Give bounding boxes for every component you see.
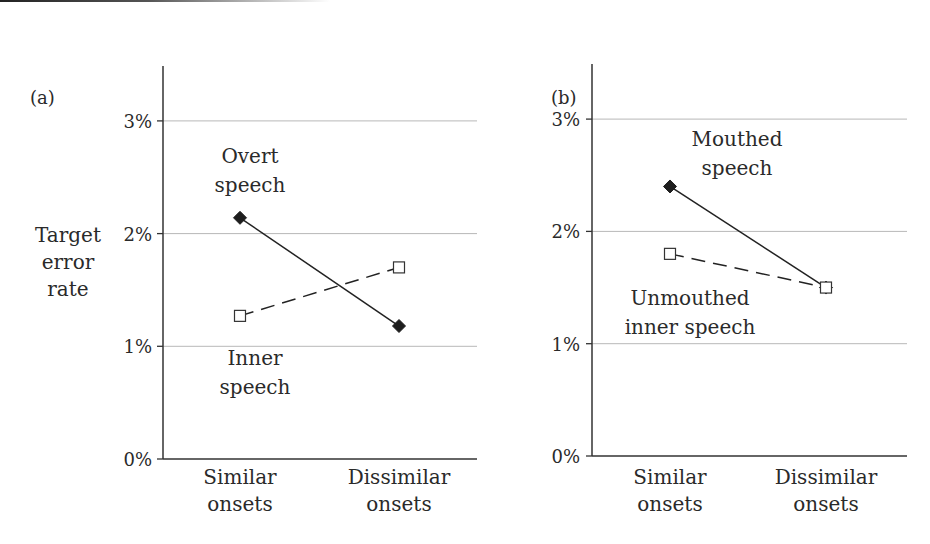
x-category-label: onsets bbox=[793, 492, 858, 516]
panel-label: (b) bbox=[551, 87, 577, 108]
open-square-marker bbox=[394, 262, 405, 273]
y-tick-label: 2% bbox=[551, 221, 580, 242]
open-square-marker bbox=[821, 282, 832, 293]
y-tick-label: 1% bbox=[123, 336, 152, 357]
series-label: Mouthed bbox=[692, 127, 783, 151]
filled-diamond-marker bbox=[393, 320, 406, 333]
series-label: Unmouthed bbox=[630, 286, 749, 310]
open-square-marker bbox=[665, 248, 676, 259]
dashed-series-line bbox=[240, 267, 399, 315]
y-axis-label: rate bbox=[47, 277, 88, 301]
x-category-label: onsets bbox=[637, 492, 702, 516]
x-category-label: Similar bbox=[203, 465, 277, 489]
y-axis-label: error bbox=[42, 250, 95, 274]
dashed-series-line bbox=[670, 254, 826, 288]
panel-label: (a) bbox=[30, 87, 55, 108]
x-category-label: Dissimilar bbox=[348, 465, 451, 489]
y-tick-label: 1% bbox=[551, 334, 580, 355]
figure-canvas: (a)0%1%2%3%TargeterrorrateSimilaronsetsD… bbox=[0, 0, 930, 544]
filled-diamond-marker bbox=[664, 180, 677, 193]
open-square-marker bbox=[235, 310, 246, 321]
series-label: inner speech bbox=[625, 315, 756, 339]
series-label: speech bbox=[220, 375, 291, 399]
y-tick-label: 3% bbox=[123, 111, 152, 132]
y-axis-label: Target bbox=[35, 223, 101, 247]
series-label: Overt bbox=[221, 144, 278, 168]
x-category-label: onsets bbox=[207, 492, 272, 516]
series-label: Inner bbox=[227, 346, 282, 370]
x-category-label: onsets bbox=[366, 492, 431, 516]
series-label: speech bbox=[215, 173, 286, 197]
y-tick-label: 2% bbox=[123, 224, 152, 245]
filled-diamond-marker bbox=[234, 211, 247, 224]
x-category-label: Similar bbox=[633, 465, 707, 489]
y-tick-label: 0% bbox=[551, 446, 580, 467]
y-tick-label: 0% bbox=[123, 449, 152, 470]
series-label: speech bbox=[702, 156, 773, 180]
y-tick-label: 3% bbox=[551, 109, 580, 130]
solid-series-line bbox=[670, 186, 826, 287]
x-category-label: Dissimilar bbox=[775, 465, 878, 489]
